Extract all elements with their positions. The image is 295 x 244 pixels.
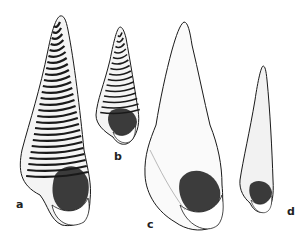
shell-d: [240, 66, 273, 213]
shell-plate: [0, 0, 295, 244]
label-d: d: [287, 205, 295, 218]
shell-c: [145, 22, 223, 230]
shell-b: [96, 27, 140, 144]
label-b: b: [114, 150, 122, 163]
label-c: c: [147, 218, 154, 231]
shell-a: [20, 16, 90, 226]
label-a: a: [16, 198, 23, 211]
